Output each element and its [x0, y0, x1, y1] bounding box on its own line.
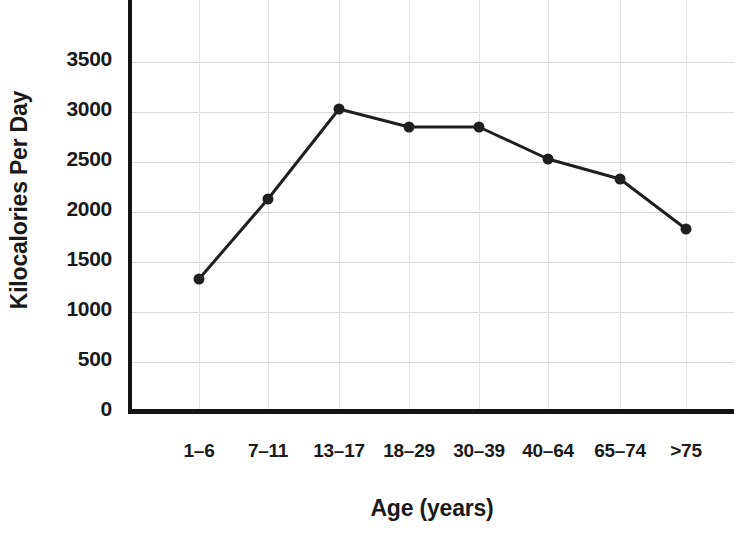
y-axis-line: [128, 0, 132, 414]
data-series-line: 1–6: 13007–11: 210013–17: 300018–29: 282…: [132, 0, 734, 409]
data-point-marker: 18–29: 2820: [404, 122, 415, 133]
x-axis-tick-label: 13–17: [313, 440, 364, 462]
data-point-marker: 30–39: 2820: [474, 122, 485, 133]
x-axis-title: Age (years): [130, 495, 734, 522]
data-point-marker: 7–11: 2100: [263, 194, 274, 205]
data-point-marker: >75: 1800: [681, 224, 692, 235]
kilocalories-per-day-line-chart: 1–6: 13007–11: 210013–17: 300018–29: 282…: [0, 0, 734, 534]
data-point-marker: 1–6: 1300: [194, 274, 205, 285]
x-axis-tick-label: >75: [670, 440, 701, 462]
x-axis-tick-label: 30–39: [453, 440, 504, 462]
y-axis-title: Kilocalories Per Day: [2, 0, 36, 410]
x-axis-tick-label: 18–29: [383, 440, 434, 462]
x-axis-tick-label: 1–6: [184, 440, 215, 462]
plot-area: 1–6: 13007–11: 210013–17: 300018–29: 282…: [132, 0, 734, 409]
series-polyline: [199, 109, 686, 279]
x-axis-tick-label: 40–64: [522, 440, 573, 462]
x-axis-line: [128, 409, 734, 414]
data-point-marker: 40–64: 2500: [543, 154, 554, 165]
data-point-marker: 65–74: 2300: [615, 174, 626, 185]
x-axis-tick-label: 65–74: [594, 440, 645, 462]
x-axis-tick-label: 7–11: [248, 440, 288, 462]
data-point-marker: 13–17: 3000: [334, 104, 345, 115]
